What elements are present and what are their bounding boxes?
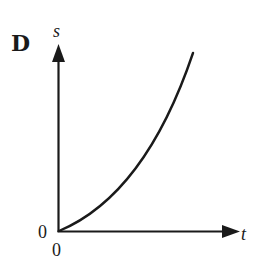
y-origin-label: 0 <box>38 222 47 242</box>
x-axis-label: t <box>241 224 247 244</box>
y-axis-arrow-icon <box>52 44 65 62</box>
displacement-curve <box>59 53 193 231</box>
x-origin-label: 0 <box>52 240 61 260</box>
panel-label: D <box>11 30 30 56</box>
s-t-graph: D s t 0 0 <box>0 0 257 275</box>
x-axis-arrow-icon <box>222 225 240 238</box>
y-axis-label: s <box>53 21 60 41</box>
